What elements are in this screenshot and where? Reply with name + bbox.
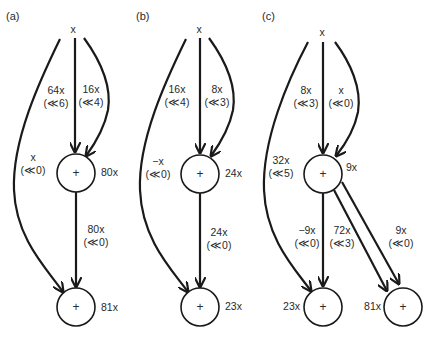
panel-c: (c) x 8x (≪3) x (≪0) 32x (≪5) −9x (≪0) 7… [262,10,422,326]
node-value: 81x [364,300,382,312]
edge-label-weight: 16x [169,83,187,95]
plus-symbol: + [319,167,326,181]
edge-label-shift: (≪0) [146,168,171,180]
edge-label-weight: 16x [83,83,101,95]
edge-label-weight: 32x [273,154,291,166]
panel-label-b: (b) [136,10,149,22]
plus-symbol: + [399,300,406,314]
plus-symbol: + [196,167,203,181]
edge-label-weight: 9x [395,224,407,236]
source-x-a: x [70,23,76,35]
node-value: 81x [101,301,119,313]
plus-symbol: + [72,166,79,180]
edge-label-weight: 24x [211,226,229,238]
edge-b-x-to-bottom [140,39,188,292]
edge-label-shift: (≪0) [295,237,320,249]
node-value: 80x [101,166,119,178]
edge-label-shift: (≪0) [21,164,46,176]
source-x-c: x [319,26,325,38]
edge-label-weight: 80x [88,223,106,235]
edge-label-shift: (≪3) [294,97,319,109]
plus-symbol: + [319,300,326,314]
edge-label-weight: −x [152,155,164,167]
panel-label-a: (a) [6,10,19,22]
plus-symbol: + [196,300,203,314]
panel-b: (b) x 16x (≪4) 8x (≪3) −x (≪0) 24x (≪0) … [136,10,243,326]
edge-label-shift: (≪4) [79,96,104,108]
edge-label-weight: 8x [300,84,312,96]
node-value: 24x [225,167,243,179]
edge-label-shift: (≪4) [165,96,190,108]
edge-label-weight: −9x [298,224,316,236]
edge-label-shift: (≪3) [330,237,355,249]
plus-symbol: + [72,300,79,314]
edge-label-shift: (≪0) [389,237,414,249]
multiplier-graphs-diagram: (a) x 64x (≪6) 16x (≪4) x (≪0) 80x (≪0) … [0,0,433,338]
edge-label-weight: 64x [48,84,66,96]
edge-label-shift: (≪6) [44,97,69,109]
edge-label-weight: 72x [334,224,352,236]
edge-label-weight: 8x [211,83,223,95]
panel-label-c: (c) [262,10,275,22]
node-value: 9x [346,161,358,173]
node-value: 23x [283,300,301,312]
edge-label-weight: x [338,84,344,96]
edge-label-shift: (≪0) [84,236,109,248]
panel-a: (a) x 64x (≪6) 16x (≪4) x (≪0) 80x (≪0) … [6,10,119,326]
edge-label-shift: (≪5) [269,167,294,179]
source-x-b: x [196,23,202,35]
edge-label-shift: (≪3) [205,96,230,108]
edge-label-shift: (≪0) [207,239,232,251]
edge-label-shift: (≪0) [329,97,354,109]
edge-label-weight: x [30,151,36,163]
node-value: 23x [225,300,243,312]
edge-c-top-to-bottom-right-9x [342,182,399,284]
